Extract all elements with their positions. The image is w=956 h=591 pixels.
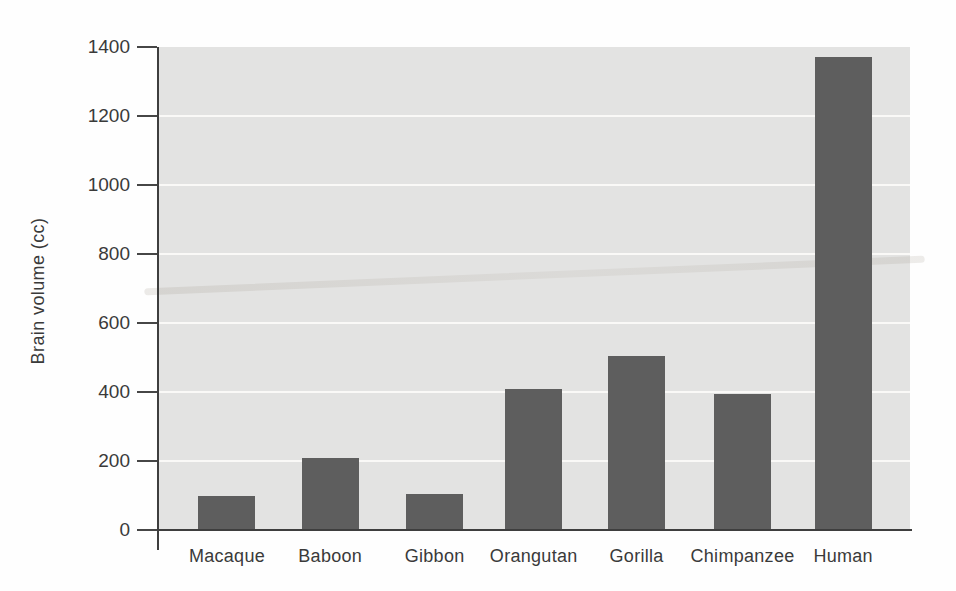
x-axis-line xyxy=(143,529,912,531)
y-tick-800 xyxy=(137,253,157,255)
y-tick-400 xyxy=(137,391,157,393)
y-tick-label-1200: 1200 xyxy=(58,105,130,127)
y-axis-line xyxy=(157,47,159,550)
gridline-1000 xyxy=(159,184,910,186)
y-tick-label-600: 600 xyxy=(58,312,130,334)
gridline-800 xyxy=(159,253,910,255)
scan-smudge-artifact xyxy=(144,256,925,296)
bar-gibbon xyxy=(406,494,463,530)
y-tick-label-400: 400 xyxy=(58,381,130,403)
plot-area xyxy=(159,47,910,530)
gridline-600 xyxy=(159,322,910,324)
bar-orangutan xyxy=(505,389,562,530)
y-tick-600 xyxy=(137,322,157,324)
y-tick-label-1000: 1000 xyxy=(58,174,130,196)
bar-gorilla xyxy=(608,356,665,530)
x-category-label-human: Human xyxy=(778,545,908,567)
bar-macaque xyxy=(198,496,255,531)
y-axis-title: Brain volume (cc) xyxy=(28,218,49,365)
y-tick-label-200: 200 xyxy=(58,450,130,472)
bar-baboon xyxy=(302,458,359,530)
y-tick-200 xyxy=(137,460,157,462)
bar-chart-figure: Brain volume (cc) 0200400600800100012001… xyxy=(0,0,956,591)
y-tick-label-1400: 1400 xyxy=(58,36,130,58)
y-tick-1400 xyxy=(137,46,157,48)
y-tick-0 xyxy=(137,529,157,531)
bar-human xyxy=(815,57,872,530)
y-tick-1000 xyxy=(137,184,157,186)
y-tick-label-800: 800 xyxy=(58,243,130,265)
gridline-1200 xyxy=(159,115,910,117)
y-tick-1200 xyxy=(137,115,157,117)
bar-chimpanzee xyxy=(714,394,771,530)
y-tick-label-0: 0 xyxy=(58,519,130,541)
